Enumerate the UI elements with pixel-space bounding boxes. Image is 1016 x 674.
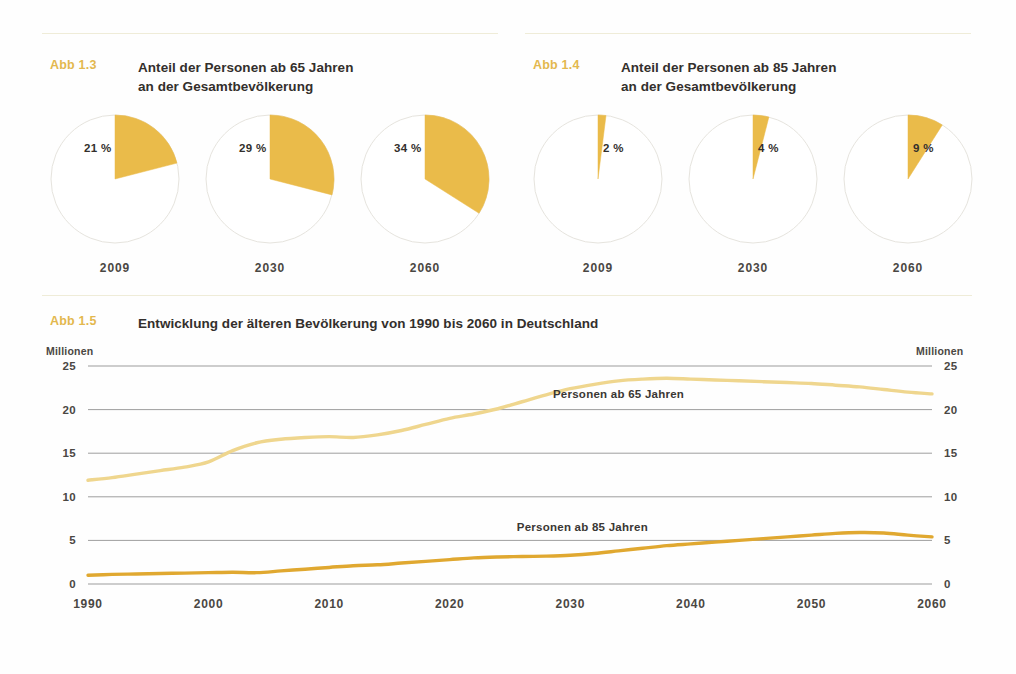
pie-year-label: 2009 xyxy=(41,261,189,275)
y-tick-label-left: 0 xyxy=(69,578,76,590)
figure-tag-abb15: Abb 1.5 xyxy=(50,314,138,328)
series-line-65plus xyxy=(88,378,932,480)
pie-graphic: 29 % xyxy=(203,112,337,246)
y-tick-label-right: 20 xyxy=(944,404,958,416)
x-tick-label: 2020 xyxy=(435,597,465,611)
figure-title-abb14: Anteil der Personen ab 85 Jahren an der … xyxy=(621,58,836,96)
y-tick-label-left: 20 xyxy=(62,404,76,416)
pie-value-label: 34 % xyxy=(394,142,421,154)
figure-title-abb15: Entwicklung der älteren Bevölkerung von … xyxy=(138,314,598,333)
y-tick-label-right: 5 xyxy=(944,534,951,546)
pie-value-label: 9 % xyxy=(913,142,934,154)
pie-chart-85plus-2009: 2 %2009 xyxy=(524,112,672,275)
pie-year-label: 2030 xyxy=(196,261,344,275)
divider-middle xyxy=(42,295,972,296)
figure-title-abb13: Anteil der Personen ab 65 Jahren an der … xyxy=(138,58,353,96)
figure-header-abb15: Abb 1.5 Entwicklung der älteren Bevölker… xyxy=(50,314,598,333)
x-tick-label: 2060 xyxy=(917,597,947,611)
line-chart: 0055101015152020252519902000201020202030… xyxy=(42,340,978,640)
x-tick-label: 1990 xyxy=(73,597,103,611)
pie-chart-65plus-2060: 34 %2060 xyxy=(351,112,499,275)
pie-graphic: 21 % xyxy=(48,112,182,246)
pie-value-label: 4 % xyxy=(758,142,779,154)
pie-chart-65plus-2030: 29 %2030 xyxy=(196,112,344,275)
x-tick-label: 2040 xyxy=(676,597,706,611)
pie-value-label: 2 % xyxy=(603,142,624,154)
pie-graphic: 9 % xyxy=(841,112,975,246)
pie-value-label: 29 % xyxy=(239,142,266,154)
y-tick-label-left: 25 xyxy=(62,360,76,372)
figure-tag-abb14: Abb 1.4 xyxy=(533,58,621,72)
pie-chart-85plus-2030: 4 %2030 xyxy=(679,112,827,275)
figure-page: Abb 1.3 Anteil der Personen ab 65 Jahren… xyxy=(0,0,1016,674)
divider-top-right xyxy=(525,33,971,34)
pie-year-label: 2030 xyxy=(679,261,827,275)
pie-graphic: 2 % xyxy=(531,112,665,246)
pie-chart-65plus-2009: 21 %2009 xyxy=(41,112,189,275)
y-tick-label-left: 5 xyxy=(69,534,76,546)
divider-top-left xyxy=(42,33,498,34)
y-tick-label-right: 15 xyxy=(944,447,958,459)
y-tick-label-right: 0 xyxy=(944,578,951,590)
series-annotation-65plus: Personen ab 65 Jahren xyxy=(553,388,684,400)
x-tick-label: 2000 xyxy=(194,597,224,611)
y-tick-label-right: 25 xyxy=(944,360,958,372)
pie-graphic: 34 % xyxy=(358,112,492,246)
x-tick-label: 2030 xyxy=(556,597,586,611)
figure-header-abb13: Abb 1.3 Anteil der Personen ab 65 Jahren… xyxy=(50,58,353,96)
pie-graphic: 4 % xyxy=(686,112,820,246)
pie-year-label: 2060 xyxy=(834,261,982,275)
pie-chart-85plus-2060: 9 %2060 xyxy=(834,112,982,275)
x-tick-label: 2050 xyxy=(797,597,827,611)
pie-year-label: 2060 xyxy=(351,261,499,275)
pie-year-label: 2009 xyxy=(524,261,672,275)
series-annotation-85plus: Personen ab 85 Jahren xyxy=(517,521,648,533)
figure-header-abb14: Abb 1.4 Anteil der Personen ab 85 Jahren… xyxy=(533,58,836,96)
x-tick-label: 2010 xyxy=(314,597,344,611)
y-tick-label-left: 10 xyxy=(62,491,76,503)
series-line-85plus xyxy=(88,533,932,576)
figure-tag-abb13: Abb 1.3 xyxy=(50,58,138,72)
y-tick-label-right: 10 xyxy=(944,491,958,503)
y-tick-label-left: 15 xyxy=(62,447,76,459)
pie-value-label: 21 % xyxy=(84,142,111,154)
